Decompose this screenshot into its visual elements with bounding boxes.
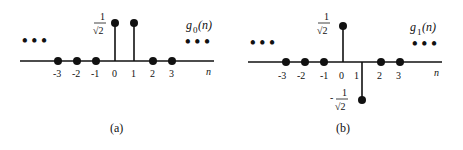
axis-label-n: n bbox=[206, 66, 211, 77]
sample-dot bbox=[92, 57, 100, 65]
tick-label: -2 bbox=[72, 68, 80, 79]
value-label-sign: - bbox=[330, 92, 333, 103]
value-label-den: √2 bbox=[317, 25, 328, 36]
caption-a: (a) bbox=[110, 121, 123, 135]
function-label-base: g bbox=[186, 18, 192, 32]
stem-head bbox=[358, 96, 366, 104]
function-label-base: g bbox=[410, 20, 416, 34]
sample-dot bbox=[149, 57, 157, 65]
caption-b: (b) bbox=[336, 121, 350, 135]
tick-label: -1 bbox=[320, 70, 328, 81]
value-label-num: 1 bbox=[342, 87, 347, 98]
function-label-sub: 1 bbox=[417, 27, 422, 37]
sample-dot bbox=[377, 58, 385, 66]
tick-label: -3 bbox=[278, 70, 286, 81]
axis-label-n: n bbox=[434, 67, 439, 78]
sample-dot bbox=[301, 58, 309, 66]
sample-dot bbox=[73, 57, 81, 65]
tick-label: 3 bbox=[169, 68, 174, 79]
function-label-arg: (n) bbox=[198, 18, 212, 32]
panel-a: • • • • • • 1 √2 g 0 (n) -3 -2 -1 0 1 2 … bbox=[20, 11, 214, 135]
tick-label: 0 bbox=[112, 68, 117, 79]
tick-label: 2 bbox=[377, 70, 382, 81]
sample-dot bbox=[282, 58, 290, 66]
function-label-arg: (n) bbox=[422, 20, 436, 34]
tick-label: -3 bbox=[53, 68, 61, 79]
ellipsis-right: • • • bbox=[185, 33, 210, 50]
ellipsis-left: • • • bbox=[250, 34, 275, 51]
sample-dot bbox=[396, 58, 404, 66]
tick-label: 2 bbox=[150, 68, 155, 79]
tick-label: -1 bbox=[91, 68, 99, 79]
value-label-den: √2 bbox=[93, 25, 104, 36]
tick-label: 1 bbox=[354, 70, 359, 81]
sample-dot bbox=[168, 57, 176, 65]
ellipsis-left: • • • bbox=[22, 32, 47, 49]
tick-label: 3 bbox=[396, 70, 401, 81]
stem-head bbox=[111, 19, 119, 27]
value-label-den: √2 bbox=[335, 101, 346, 112]
tick-label: -2 bbox=[297, 70, 305, 81]
value-label-num: 1 bbox=[100, 11, 105, 22]
ellipsis-right: • • • bbox=[412, 35, 437, 52]
value-label-num: 1 bbox=[324, 11, 329, 22]
sample-dot bbox=[320, 58, 328, 66]
stem-head bbox=[339, 22, 347, 30]
tick-label: 1 bbox=[131, 68, 136, 79]
stem-head bbox=[130, 19, 138, 27]
tick-label: 0 bbox=[339, 70, 344, 81]
sample-dot bbox=[54, 57, 62, 65]
panel-b: • • • • • • 1 √2 - 1 √2 g 1 (n) -3 -2 -1… bbox=[248, 11, 442, 135]
filter-impulse-response-diagram: • • • • • • 1 √2 g 0 (n) -3 -2 -1 0 1 2 … bbox=[0, 0, 463, 150]
